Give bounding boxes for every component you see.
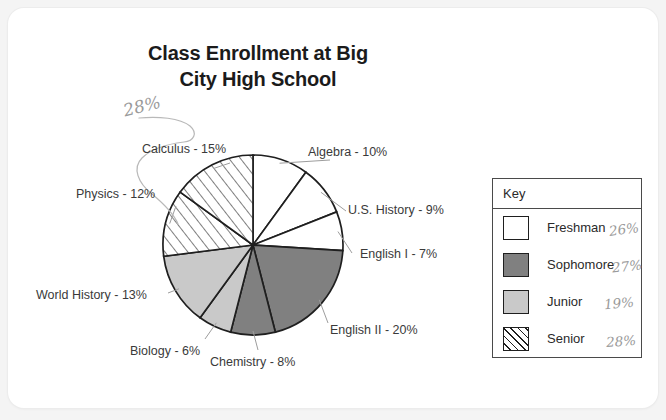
- pie-slices: [163, 155, 343, 335]
- legend-item-label: Freshman: [547, 220, 606, 235]
- pie-slice-label: World History - 13%: [36, 289, 147, 302]
- pie-slice-label: English I - 7%: [360, 248, 437, 261]
- legend-handwritten-annotation: 28%: [605, 332, 636, 350]
- legend-handwritten-annotation: 27%: [611, 256, 643, 275]
- leader-line: [319, 300, 328, 323]
- pie-slice-label: Physics - 12%: [76, 188, 155, 201]
- pie-slice-label: Biology - 6%: [130, 345, 200, 358]
- pie-slice-label: English II - 20%: [330, 324, 418, 337]
- pie-slice-label: Chemistry - 8%: [210, 356, 295, 369]
- legend-swatch: [503, 253, 529, 277]
- legend-swatch: [503, 290, 529, 314]
- legend-header: Key: [493, 179, 641, 209]
- legend-item-label: Sophomore: [547, 257, 614, 272]
- screenshot-root: Class Enrollment at Big City High School…: [0, 0, 666, 420]
- pie-slice-label: Calculus - 15%: [142, 143, 226, 156]
- legend-item-label: Senior: [547, 331, 585, 346]
- chart-card: Class Enrollment at Big City High School…: [8, 8, 658, 408]
- legend-title: Key: [503, 186, 525, 201]
- legend-swatch: [503, 216, 529, 240]
- pie-slice-label: Algebra - 10%: [308, 146, 387, 159]
- legend-swatch: [503, 327, 529, 351]
- pie-slice-label: U.S. History - 9%: [348, 204, 444, 217]
- legend-item-label: Junior: [547, 294, 582, 309]
- legend-handwritten-annotation: 19%: [603, 294, 634, 313]
